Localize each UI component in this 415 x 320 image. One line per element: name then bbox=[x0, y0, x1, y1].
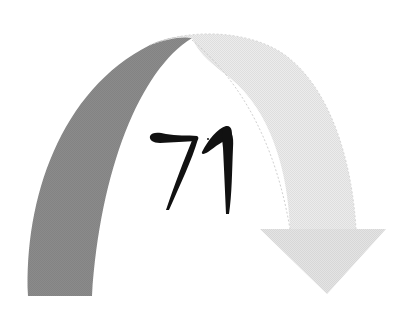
handwritten-number-71 bbox=[150, 126, 233, 214]
arc-arrow-diagram: 71 bbox=[0, 0, 415, 320]
curved-arrow-graphic bbox=[0, 0, 415, 320]
